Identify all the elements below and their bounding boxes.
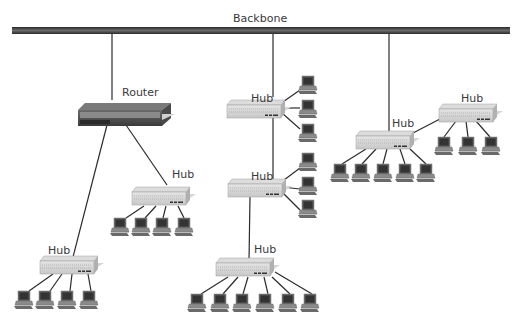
hub-label: Hub [172,168,194,181]
computer-icon [395,164,414,182]
computer-icon [298,177,317,195]
computer-icon [481,137,500,155]
computers-hub-middle-bottom [187,294,319,312]
computer-icon [298,76,317,94]
hub-label: Hub [392,117,414,130]
computer-icon [373,164,392,182]
computer-icon [351,164,370,182]
hub-far-right: Hub [439,92,503,122]
router-label: Router [122,86,159,99]
computers-hub-middle-mid [298,153,317,218]
computer-icon [416,164,435,182]
computer-icon [35,291,54,309]
computer-icon [278,294,297,312]
computer-icon [298,100,317,118]
backbone-label: Backbone [233,12,287,25]
computer-icon [298,124,317,142]
hub-label: Hub [254,243,276,256]
hub-right: Hub [356,117,420,149]
computers-hub-router-left [14,291,98,309]
computer-icon [187,294,206,312]
computer-icon [300,294,319,312]
computer-icon [458,137,477,155]
hub-middle-top: Hub [227,92,291,118]
hub-label: Hub [251,170,273,183]
computer-icon [210,294,229,312]
hub-middle-bottom: Hub [216,243,280,276]
computer-icon [79,291,98,309]
computers-hub-middle-top [298,76,317,142]
computers-hub-far-right [434,137,500,155]
computer-icon [232,294,251,312]
router: Router [78,86,175,126]
hub-router-right: Hub [132,168,196,205]
computer-icon [14,291,33,309]
hub-middle-mid: Hub [228,170,292,197]
computer-icon [110,218,129,236]
hub-label: Hub [461,92,483,105]
hub-label: Hub [48,244,70,257]
computer-icon [298,153,317,171]
network-diagram: Backbone [0,0,513,321]
computer-icon [152,218,171,236]
backbone: Backbone [12,12,510,34]
computer-icon [131,218,150,236]
computer-icon [174,218,193,236]
computer-icon [57,291,76,309]
computer-icon [434,137,453,155]
computer-icon [298,200,317,218]
hub-router-left: Hub [40,244,104,274]
computer-icon [330,164,349,182]
computer-icon [255,294,274,312]
hub-label: Hub [251,92,273,105]
computers-hub-right [330,164,435,182]
computers-hub-router-right [110,218,193,236]
